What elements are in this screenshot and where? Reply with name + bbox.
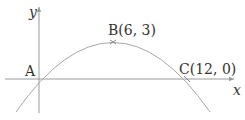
y-axis-label: y [28,4,38,20]
point-b-label: B(6, 3) [108,22,156,38]
parabola-diagram: y x A B(6, 3) C(12, 0) [0,0,245,120]
point-b-marker [110,40,116,44]
parabola-curve [16,43,210,113]
x-axis-label: x [233,82,241,98]
point-a-label: A [24,63,36,79]
point-c-label: C(12, 0) [179,61,236,77]
